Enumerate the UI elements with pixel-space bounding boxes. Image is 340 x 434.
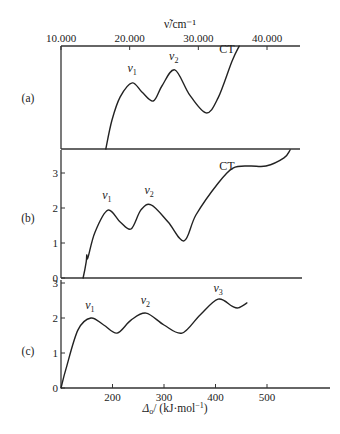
- bottom-tick-label: 200: [104, 391, 121, 403]
- y-tick-label: 2: [53, 312, 59, 324]
- panel-label: (a): [22, 92, 35, 105]
- band-label-nu2: v2: [141, 293, 150, 309]
- panel-c-spectrum-line: [61, 299, 247, 388]
- top-tick-label: 20.000: [115, 32, 146, 44]
- bottom-tick-label: 500: [259, 391, 276, 403]
- top-axis: ν̃/cm⁻¹ 10.00020.00030.00040.000: [46, 18, 300, 50]
- bottom-axis: 200300400500 Δo/ (kJ·mol−1): [104, 384, 276, 416]
- ligand-field-spectra-chart: ν̃/cm⁻¹ 10.00020.00030.00040.000 (a)v1v2…: [0, 0, 340, 434]
- top-tick-label: 30.000: [183, 32, 214, 44]
- bottom-axis-title-exp: −1: [195, 401, 204, 410]
- band-label-ct: CT: [219, 159, 235, 173]
- y-tick-label: 1: [53, 237, 59, 249]
- band-label-nu1: v1: [85, 298, 94, 314]
- y-tick-label: 2: [53, 202, 59, 214]
- panel-c: 0123(c)v1v2v3: [22, 277, 330, 394]
- y-tick-label: 3: [53, 167, 59, 179]
- band-label-nu3: v3: [213, 281, 222, 297]
- top-tick-label: 10.000: [46, 32, 77, 44]
- bottom-tick-label: 400: [207, 391, 224, 403]
- y-tick-label: 0: [53, 382, 59, 394]
- y-tick-label: 1: [53, 347, 59, 359]
- panel-label: (b): [21, 212, 35, 225]
- band-label-nu2: v2: [144, 183, 153, 199]
- bottom-axis-title-close: ): [204, 402, 208, 415]
- y-tick-label: 3: [53, 277, 59, 289]
- bottom-axis-title: Δo/ (kJ·mol−1): [142, 401, 208, 416]
- band-label-nu1: v1: [102, 188, 111, 204]
- top-tick-label: 40.000: [252, 32, 283, 44]
- top-axis-title: ν̃/cm⁻¹: [164, 18, 196, 30]
- panel-b-spectrum-line: [83, 150, 290, 278]
- panel-label: (c): [22, 345, 35, 358]
- panel-a: (a)v1v2CT: [22, 42, 300, 149]
- panel-b: 0123(b)v1v2CT: [21, 150, 302, 284]
- band-label-ct: CT: [219, 42, 235, 56]
- band-label-nu1: v1: [127, 61, 136, 77]
- band-label-nu2: v2: [169, 49, 178, 65]
- bottom-axis-title-unit: / (kJ·mol: [153, 402, 195, 415]
